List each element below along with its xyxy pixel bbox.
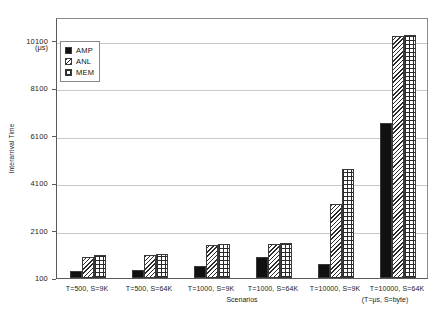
bar-mem[interactable] xyxy=(156,254,168,278)
bar-chart-figure: 100210041006100810010100 (μs) Interarriv… xyxy=(0,0,446,329)
bar-amp[interactable] xyxy=(132,270,144,278)
bar-group xyxy=(380,19,416,278)
bar-anl[interactable] xyxy=(330,204,342,278)
x-axis-tick-label: T=500, S=64K xyxy=(118,284,180,294)
y-axis-title: Interarrival Time xyxy=(8,89,15,209)
bar-group xyxy=(194,19,230,278)
legend-item-label: MEM xyxy=(76,67,94,78)
legend-item-label: ANL xyxy=(76,56,91,67)
bar-group xyxy=(132,19,168,278)
bar-amp[interactable] xyxy=(194,266,206,278)
x-axis-tick-label: T=1000, S=9K xyxy=(180,284,242,294)
bar-anl[interactable] xyxy=(206,245,218,278)
y-axis-unit-label: (μs) xyxy=(0,43,48,52)
bar-anl[interactable] xyxy=(82,257,94,278)
x-axis-tick-label: T=1000, S=64K xyxy=(242,284,304,294)
y-axis-tick-label: 100 xyxy=(0,273,56,285)
bar-series-container xyxy=(57,19,427,278)
legend-item[interactable]: AMP xyxy=(65,45,94,56)
legend-swatch-icon xyxy=(65,58,72,65)
y-axis-tick-label: 2100 xyxy=(0,226,56,238)
legend-item[interactable]: MEM xyxy=(65,67,94,78)
x-axis-tick-label: T=10000, S=64K xyxy=(366,284,428,294)
bar-amp[interactable] xyxy=(380,123,392,278)
bar-anl[interactable] xyxy=(268,244,280,278)
x-axis-tick-label: T=10000, S=9K xyxy=(304,284,366,294)
chart-legend: AMPANLMEM xyxy=(60,41,100,82)
bar-amp[interactable] xyxy=(70,271,82,278)
bar-anl[interactable] xyxy=(144,255,156,278)
legend-item-label: AMP xyxy=(76,45,93,56)
bar-anl[interactable] xyxy=(392,36,404,278)
bar-mem[interactable] xyxy=(404,35,416,278)
legend-item[interactable]: ANL xyxy=(65,56,94,67)
bar-amp[interactable] xyxy=(256,257,268,278)
plot-area xyxy=(56,18,428,279)
bar-amp[interactable] xyxy=(318,264,330,278)
x-axis-tick-label: T=500, S=9K xyxy=(56,284,118,294)
legend-swatch-icon xyxy=(65,69,72,76)
bar-mem[interactable] xyxy=(218,244,230,278)
bar-mem[interactable] xyxy=(94,255,106,278)
legend-swatch-icon xyxy=(65,47,72,54)
bar-mem[interactable] xyxy=(342,169,354,278)
bar-group xyxy=(318,19,354,278)
bar-mem[interactable] xyxy=(280,243,292,278)
bar-group xyxy=(256,19,292,278)
x-axis-unit-note: (T=μs, S=byte) xyxy=(330,296,440,303)
